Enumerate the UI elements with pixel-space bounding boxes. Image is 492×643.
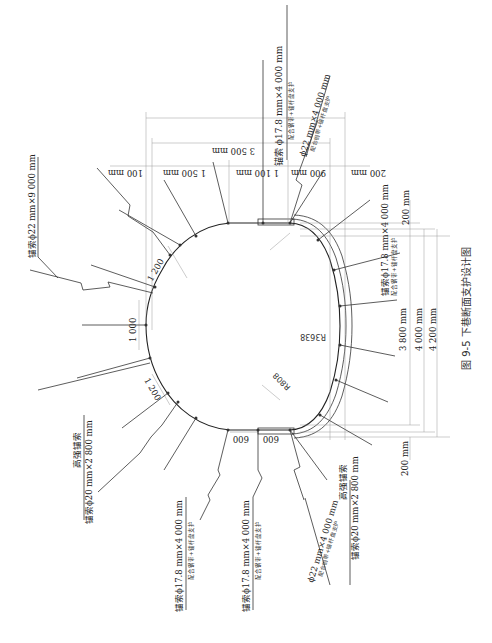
dim-3500: 3 500 mm: [212, 146, 255, 156]
dim-4000: 4 000 mm: [414, 308, 424, 351]
dim-arch-1200-lower: 1 200: [142, 376, 163, 402]
svg-text:配合钢带+锚杆盘支护: 配合钢带+锚杆盘支护: [390, 237, 398, 296]
label-hs-anchor-left: 高强锚索 锚索ϕ20 mm×2 800 mm: [72, 415, 94, 524]
dim-200-top: 200 mm: [351, 168, 386, 178]
dim-1100: 1 100 mm: [236, 168, 279, 178]
svg-text:高强锚索: 高强锚索: [72, 432, 82, 468]
label-anchor-top: 锚索 ϕ17.8 mm×4 000 mm 配合钢带+锚杆盘支护: [273, 5, 295, 166]
dim-200-right-top: 200 mm: [401, 190, 411, 225]
arch-dimensions: [139, 233, 290, 405]
dim-arch-1200-upper: 1 200: [145, 257, 166, 283]
dim-600-b: 600: [263, 434, 279, 444]
tunnel-support-drawing: 3 500 mm 100 mm 1 500 mm 1 100 mm 900 mm…: [0, 0, 492, 643]
radius-r808: R808: [271, 371, 292, 392]
svg-text:配合钢带+锚杆盘支护: 配合钢带+锚杆盘支护: [187, 521, 195, 580]
dim-600-a: 600: [233, 434, 249, 444]
svg-text:配合钢带+锚杆盘支护: 配合钢带+锚杆盘支护: [254, 521, 262, 580]
svg-text:锚索 ϕ17.8 mm×4 000 mm: 锚索 ϕ17.8 mm×4 000 mm: [273, 45, 284, 166]
svg-text:锚索ϕ17.8 mm×4 000 mm: 锚索ϕ17.8 mm×4 000 mm: [174, 500, 184, 612]
dim-1500: 1 500 mm: [163, 168, 206, 178]
dim-900: 900 mm: [291, 168, 326, 178]
radius-r3638: R3638: [300, 332, 326, 341]
label-hs-anchor-right: 高强锚索 锚索ϕ20 mm×2 800 mm: [338, 456, 360, 585]
svg-text:锚索ϕ17.8 mm×4 000 mm: 锚索ϕ17.8 mm×4 000 mm: [380, 184, 390, 296]
label-anchor-right: 锚索ϕ17.8 mm×4 000 mm 配合钢带+锚杆盘支护: [380, 184, 398, 296]
label-bolt-22-top: ϕ22 mm×4 000 mm 配合钢带+锚杆盘支护: [297, 73, 333, 158]
figure-caption: 图 9-5 下巷断面支护设计图: [460, 247, 472, 370]
dim-arch-1000: 1 000: [128, 318, 138, 342]
label-anchor-bottom-b: 锚索ϕ17.8 mm×4 000 mm 配合钢带+锚杆盘支护: [241, 497, 262, 612]
label-bolt-22-bottom: ϕ22 mm×4 000 mm 配合钢带+锚杆盘支护: [305, 498, 341, 585]
label-anchor-22x9000: 锚索ϕ22 mm×9 000 mm: [27, 154, 58, 278]
tunnel-outline: [146, 215, 352, 438]
dim-3800: 3 800 mm: [398, 308, 408, 351]
svg-text:锚索ϕ17.8 mm×4 000 mm: 锚索ϕ17.8 mm×4 000 mm: [241, 500, 251, 612]
dim-4200: 4 200 mm: [428, 308, 438, 351]
svg-text:锚索ϕ20 mm×2 800 mm: 锚索ϕ20 mm×2 800 mm: [84, 420, 94, 524]
svg-text:高强锚索: 高强锚索: [338, 464, 348, 500]
dim-100: 100 mm: [108, 168, 143, 178]
label-anchor-bottom-a: 锚索ϕ17.8 mm×4 000 mm 配合钢带+锚杆盘支护: [174, 497, 195, 612]
anchor-heads: [145, 222, 342, 432]
svg-text:锚索ϕ20 mm×2 800 mm: 锚索ϕ20 mm×2 800 mm: [350, 456, 360, 560]
svg-text:配合钢带+锚杆盘支护: 配合钢带+锚杆盘支护: [287, 81, 295, 140]
dim-200-right-bottom: 200 mm: [400, 441, 410, 476]
svg-text:锚索ϕ22 mm×9 000 mm: 锚索ϕ22 mm×9 000 mm: [27, 154, 37, 258]
